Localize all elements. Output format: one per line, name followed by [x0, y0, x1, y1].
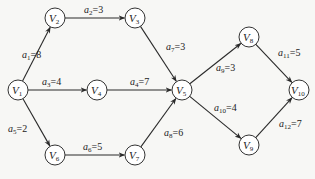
aoe-graph-diagram: V1V2V3V4V5V6V7V8V9V10 a1=8a2=3a3=4a4=7a5…	[0, 0, 315, 179]
graph-svg: V1V2V3V4V5V6V7V8V9V10 a1=8a2=3a3=4a4=7a5…	[0, 0, 315, 179]
node-v5: V5	[172, 80, 192, 100]
node-v9: V9	[239, 135, 259, 155]
edge-label-a5: a5=2	[8, 123, 27, 136]
edge-a12	[256, 98, 292, 138]
edge-label-a6: a6=5	[83, 141, 102, 154]
node-v4: V4	[87, 80, 107, 100]
edge-a11	[256, 44, 292, 82]
node-v6: V6	[45, 145, 65, 165]
node-v10: V10	[289, 80, 309, 100]
edge-label-a7: a7=3	[166, 41, 185, 54]
edge-label-a1: a1=8	[22, 49, 41, 62]
edge-label-a12: a12=7	[279, 118, 302, 131]
node-v8: V8	[239, 27, 259, 47]
edge-label-a9: a9=3	[216, 62, 235, 75]
edge-label-a2: a2=3	[84, 4, 103, 17]
edge-label-a4: a4=7	[130, 76, 149, 89]
edge-label-a11: a11=5	[278, 47, 300, 60]
edge-label-a3: a3=4	[42, 76, 61, 89]
edge-label-a10: a10=4	[214, 102, 237, 115]
edge-label-a8: a8=6	[164, 127, 183, 140]
node-v7: V7	[125, 145, 145, 165]
node-v3: V3	[125, 8, 145, 28]
node-v2: V2	[45, 8, 65, 28]
node-v1: V1	[8, 80, 28, 100]
